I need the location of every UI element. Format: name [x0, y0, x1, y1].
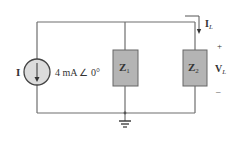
load-voltage: + VL –	[215, 41, 226, 96]
source-value: 4 mA ∠ 0°	[55, 67, 100, 78]
load-current-label: IL	[205, 18, 213, 31]
current-source: I 4 mA ∠ 0°	[16, 59, 100, 85]
load-current: IL	[185, 16, 213, 34]
circuit-diagram: I 4 mA ∠ 0° Z1 Z2 IL + VL –	[0, 0, 236, 143]
impedance-z2: Z2	[183, 50, 207, 86]
voltage-plus: +	[217, 41, 222, 51]
source-label: I	[16, 66, 20, 78]
impedance-z1: Z1	[113, 50, 138, 86]
load-current-arrow-icon	[185, 16, 199, 31]
voltage-minus: –	[215, 86, 221, 96]
ground-icon	[119, 113, 131, 127]
load-voltage-label: VL	[215, 63, 226, 76]
load-current-arrowhead-icon	[197, 29, 201, 34]
